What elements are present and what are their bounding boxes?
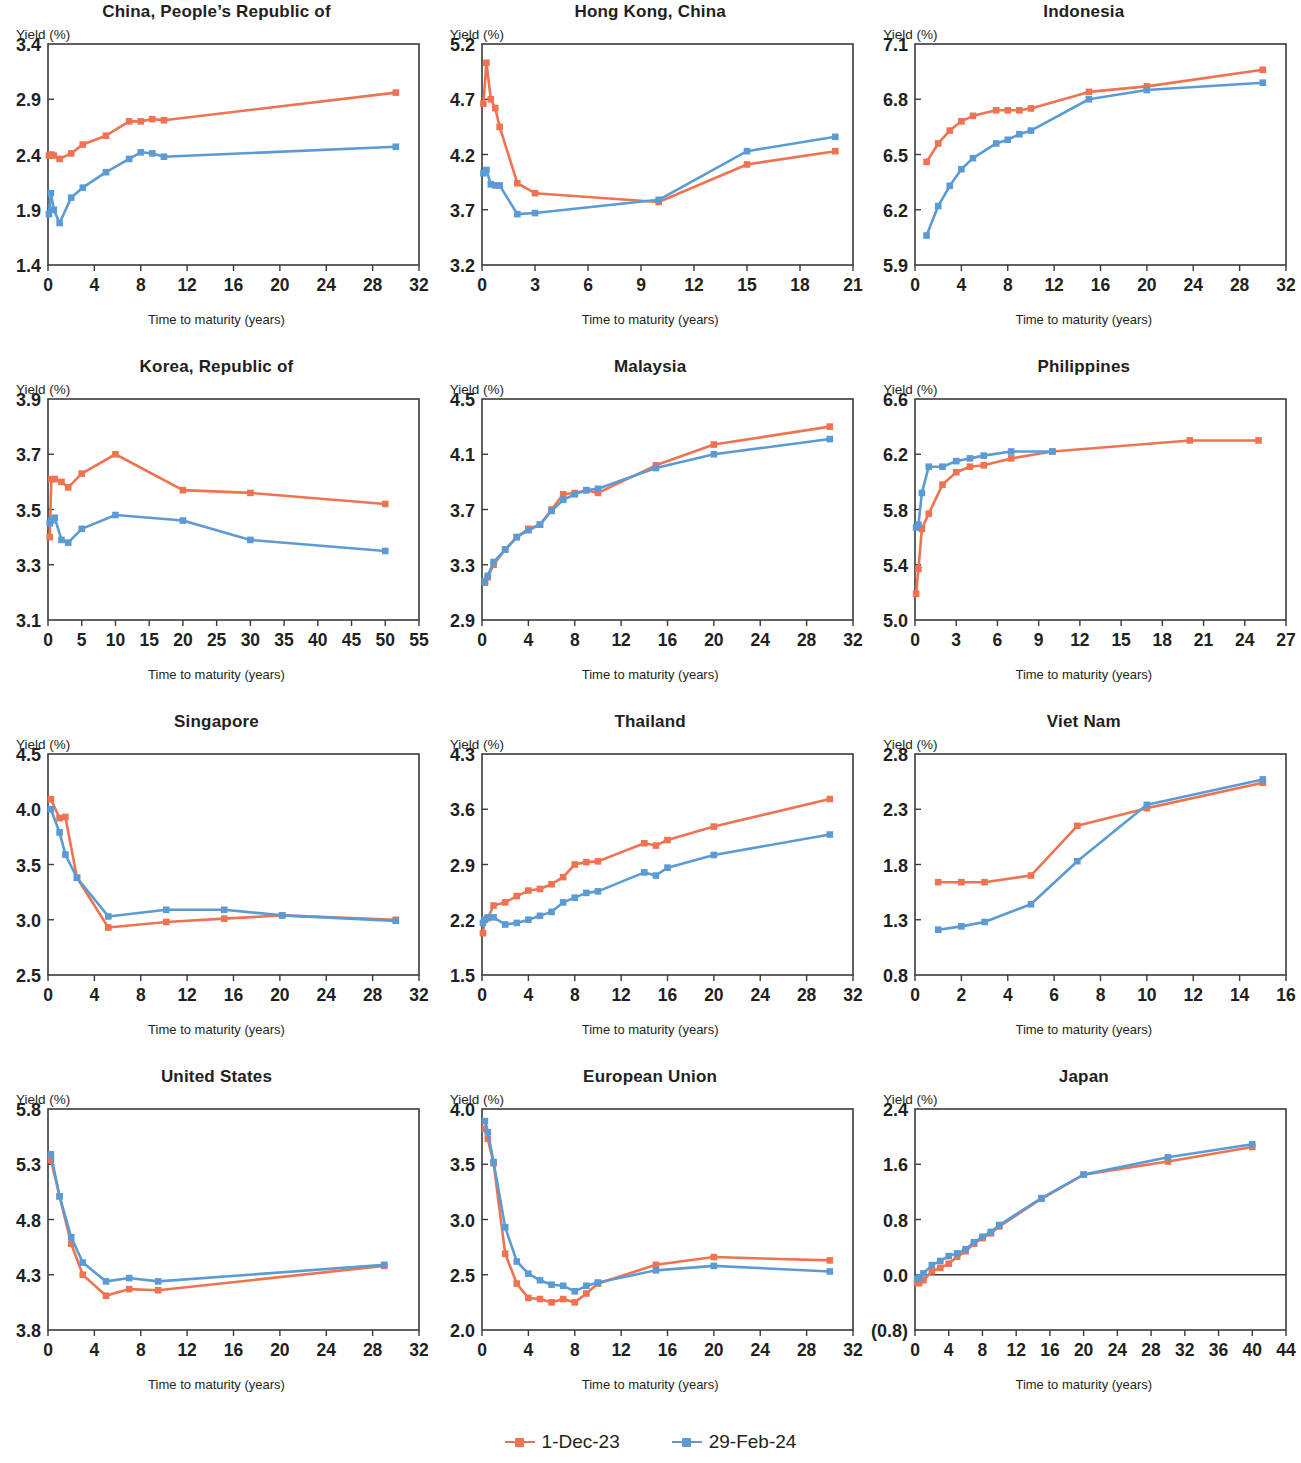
svg-text:2.3: 2.3	[883, 800, 908, 820]
svg-text:16: 16	[657, 630, 677, 650]
series-line	[914, 1144, 1256, 1287]
svg-text:8: 8	[1003, 275, 1013, 295]
svg-text:12: 12	[177, 985, 197, 1005]
chart-panel: JapanYield (%)Time to maturity (years)04…	[867, 1065, 1300, 1420]
svg-text:20: 20	[270, 1340, 290, 1360]
svg-text:0: 0	[910, 985, 920, 1005]
chart-panel: MalaysiaYield (%)Time to maturity (years…	[434, 355, 867, 710]
svg-text:0: 0	[43, 630, 53, 650]
svg-text:16: 16	[657, 1340, 677, 1360]
svg-text:3.5: 3.5	[16, 856, 41, 876]
plot-area: 0481216202428323.84.34.85.35.8	[0, 1065, 433, 1420]
svg-text:4: 4	[523, 985, 533, 1005]
svg-text:24: 24	[750, 1340, 770, 1360]
series-line	[924, 66, 1267, 165]
series-line	[48, 1151, 388, 1285]
svg-text:2.5: 2.5	[450, 1266, 475, 1286]
svg-text:24: 24	[750, 985, 770, 1005]
svg-text:6.6: 6.6	[883, 390, 908, 410]
plot-area: 0481216202428321.52.22.93.64.3	[434, 710, 867, 1065]
svg-text:2.0: 2.0	[450, 1321, 475, 1341]
svg-text:0: 0	[910, 275, 920, 295]
svg-text:6.5: 6.5	[883, 146, 908, 166]
svg-text:8: 8	[1096, 985, 1106, 1005]
svg-text:28: 28	[1142, 1340, 1162, 1360]
svg-text:32: 32	[1175, 1340, 1195, 1360]
svg-text:3.2: 3.2	[450, 256, 475, 276]
svg-text:28: 28	[363, 985, 383, 1005]
svg-text:0: 0	[43, 1340, 53, 1360]
plot-area: 0369121518213.23.74.24.75.2	[434, 0, 867, 355]
svg-text:4: 4	[90, 985, 100, 1005]
svg-text:4.7: 4.7	[450, 90, 475, 110]
svg-text:16: 16	[657, 985, 677, 1005]
svg-text:8: 8	[136, 275, 146, 295]
svg-text:16: 16	[1041, 1340, 1061, 1360]
svg-text:2.9: 2.9	[16, 90, 41, 110]
series-line	[46, 143, 399, 226]
svg-text:1.4: 1.4	[16, 256, 41, 276]
svg-text:28: 28	[363, 275, 383, 295]
svg-text:32: 32	[409, 985, 429, 1005]
svg-text:20: 20	[704, 630, 724, 650]
svg-text:28: 28	[797, 1340, 817, 1360]
svg-text:2.2: 2.2	[450, 911, 475, 931]
svg-text:24: 24	[750, 630, 770, 650]
svg-text:12: 12	[1045, 275, 1065, 295]
legend-swatch-orange	[505, 1436, 535, 1448]
svg-text:8: 8	[570, 985, 580, 1005]
svg-text:24: 24	[317, 275, 337, 295]
svg-text:32: 32	[843, 985, 863, 1005]
svg-text:27: 27	[1277, 630, 1296, 650]
series-line	[480, 59, 839, 205]
legend-label-1: 1-Dec-23	[542, 1431, 620, 1453]
svg-text:4.1: 4.1	[450, 445, 475, 465]
svg-text:9: 9	[1034, 630, 1044, 650]
series-line	[914, 1141, 1256, 1282]
series-line	[481, 423, 833, 586]
svg-text:3.1: 3.1	[16, 611, 41, 631]
svg-text:28: 28	[797, 985, 817, 1005]
legend-swatch-blue	[672, 1436, 702, 1448]
svg-text:3.7: 3.7	[16, 445, 41, 465]
series-line	[46, 89, 399, 162]
svg-text:21: 21	[1194, 630, 1214, 650]
svg-text:20: 20	[704, 985, 724, 1005]
svg-text:0: 0	[43, 275, 53, 295]
chart-panel: United StatesYield (%)Time to maturity (…	[0, 1065, 433, 1420]
svg-text:3.9: 3.9	[16, 390, 41, 410]
chart-grid: China, People’s Republic ofYield (%)Time…	[0, 0, 1301, 1420]
svg-text:3.0: 3.0	[16, 911, 41, 931]
series-line	[481, 1126, 833, 1306]
svg-text:6.2: 6.2	[883, 201, 908, 221]
chart-panel: European UnionYield (%)Time to maturity …	[434, 1065, 867, 1420]
svg-text:32: 32	[409, 1340, 429, 1360]
series-line	[479, 796, 832, 937]
plot-area: 048121620242832364044(0.8)0.00.81.62.4	[867, 1065, 1300, 1420]
series-line	[924, 79, 1267, 238]
svg-text:12: 12	[177, 275, 197, 295]
plot-area: 0481216202428322.53.03.54.04.5	[0, 710, 433, 1065]
series-line	[46, 451, 388, 540]
svg-text:0.0: 0.0	[883, 1266, 908, 1286]
svg-text:2.4: 2.4	[883, 1100, 908, 1120]
svg-text:5.3: 5.3	[16, 1155, 41, 1175]
svg-text:28: 28	[797, 630, 817, 650]
svg-text:4: 4	[1003, 985, 1013, 1005]
series-line	[935, 779, 1266, 885]
chart-panel: SingaporeYield (%)Time to maturity (year…	[0, 710, 433, 1065]
svg-text:32: 32	[843, 1340, 863, 1360]
plot-area: 02468101214160.81.31.82.32.8	[867, 710, 1300, 1065]
svg-text:3: 3	[530, 275, 540, 295]
svg-text:28: 28	[363, 1340, 383, 1360]
svg-text:5.4: 5.4	[883, 556, 908, 576]
svg-text:0.8: 0.8	[883, 1211, 908, 1231]
svg-text:44: 44	[1277, 1340, 1297, 1360]
svg-text:3.7: 3.7	[450, 201, 475, 221]
svg-text:15: 15	[737, 275, 757, 295]
svg-text:40: 40	[1243, 1340, 1263, 1360]
svg-text:32: 32	[1277, 275, 1297, 295]
svg-text:3.3: 3.3	[450, 556, 475, 576]
series-line	[913, 437, 1262, 597]
svg-text:2.8: 2.8	[883, 745, 908, 765]
